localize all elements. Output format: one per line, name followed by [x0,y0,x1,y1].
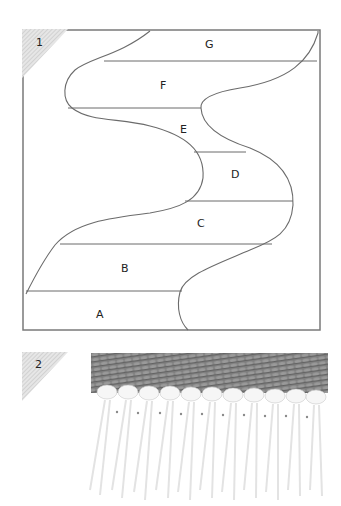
figure-number-1: 1 [36,36,43,49]
fringe-strands [90,400,322,500]
wave-pattern-diagram: 1 G F E D C B A [0,0,341,340]
section-label-e: E [180,123,187,136]
left-wave-edge [26,31,203,294]
figure-2-fringe-photo: 2 [0,340,341,506]
section-label-b: B [121,262,129,275]
figure-number-2: 2 [35,358,42,371]
figure-1-cutting-diagram: 1 G F E D C B A [0,0,341,340]
section-label-a: A [96,308,104,321]
right-wave-edge [178,31,318,330]
section-label-g: G [205,38,214,51]
section-label-c: C [197,217,205,230]
woven-fringe-photo: 2 [0,340,341,506]
section-label-d: D [231,168,239,181]
figure-number-tab [22,29,68,78]
section-label-f: F [160,79,166,92]
figure-number-tab [22,352,68,401]
figure-frame [23,30,320,330]
